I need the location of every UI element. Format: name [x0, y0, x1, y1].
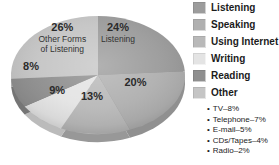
bullet-icon: •	[207, 146, 210, 155]
pie-slice-percent-label: 13%	[81, 90, 103, 102]
legend-item-using-internet: Using Internet	[193, 36, 279, 48]
legend-item-other: Other	[193, 87, 279, 99]
pie-slice-percent-label: 24%	[107, 21, 129, 33]
pie-slice-sublabel: of Listening	[41, 44, 85, 54]
legend-swatch-icon	[193, 2, 206, 14]
legend-label: Reading	[211, 70, 250, 82]
legend-item-listening: Listening	[193, 2, 279, 14]
other-breakdown-item: •Radio–2%	[207, 146, 279, 157]
bullet-icon: •	[207, 115, 210, 124]
bullet-icon: •	[207, 136, 210, 145]
bullet-icon: •	[207, 104, 210, 113]
pie-chart: 24%Listening20%13%9%8%26%Other Formsof L…	[0, 0, 196, 165]
legend-swatch-icon	[193, 70, 206, 82]
legend-swatch-icon	[193, 36, 206, 48]
pie-slice-percent-label: 20%	[124, 76, 146, 88]
other-breakdown-item: •E-mail–5%	[207, 125, 279, 136]
legend-swatch-icon	[193, 87, 206, 99]
legend-swatch-icon	[193, 19, 206, 31]
legend-item-writing: Writing	[193, 53, 279, 65]
legend-item-reading: Reading	[193, 70, 279, 82]
legend-label: Using Internet	[211, 36, 278, 48]
other-breakdown-item: •TV–8%	[207, 104, 279, 115]
pie-chart-figure: 24%Listening20%13%9%8%26%Other Formsof L…	[0, 0, 279, 165]
legend-swatch-icon	[193, 53, 206, 65]
pie-chart-area: 24%Listening20%13%9%8%26%Other Formsof L…	[0, 0, 196, 165]
pie-slice-sublabel: Other Forms	[38, 34, 86, 44]
legend-label: Other	[211, 87, 238, 99]
pie-slice-percent-label: 9%	[49, 84, 65, 96]
legend-label: Writing	[211, 53, 245, 65]
legend-label: Listening	[211, 2, 255, 14]
other-breakdown-item: •CDs/Tapes–4%	[207, 136, 279, 147]
pie-slice-sublabel: Listening	[101, 34, 135, 44]
legend: ListeningSpeakingUsing InternetWritingRe…	[193, 2, 279, 157]
pie-sheen-overlay	[11, 16, 185, 134]
bullet-icon: •	[207, 125, 210, 134]
pie-slice-percent-label: 8%	[23, 60, 39, 72]
legend-item-speaking: Speaking	[193, 19, 279, 31]
other-breakdown-item: •Telephone–7%	[207, 115, 279, 126]
legend-label: Speaking	[211, 19, 255, 31]
other-breakdown-list: •TV–8%•Telephone–7%•E-mail–5%•CDs/Tapes–…	[207, 104, 279, 157]
pie-slice-percent-label: 26%	[51, 21, 73, 33]
